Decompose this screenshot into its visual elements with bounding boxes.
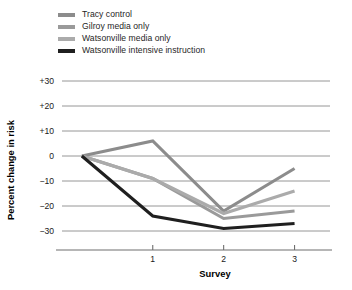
chart-figure: Tracy control Gilroy media only Watsonvi… bbox=[0, 0, 352, 290]
y-axis-tick-label: +30 bbox=[39, 76, 54, 86]
y-axis-tick-label: −30 bbox=[39, 226, 54, 236]
y-axis-tick-labels: +30+20+100−10−20−30 bbox=[39, 76, 54, 236]
y-axis-tick-label: +10 bbox=[39, 126, 54, 136]
x-axis-tick-label: 3 bbox=[292, 254, 297, 264]
x-axis-tick-labels: 123 bbox=[150, 254, 297, 264]
x-axis bbox=[56, 245, 332, 250]
y-axis-tick-label: −10 bbox=[39, 176, 54, 186]
y-axis-tick-label: +20 bbox=[39, 101, 54, 111]
x-axis-title: Survey bbox=[199, 268, 231, 279]
data-series-group bbox=[82, 141, 295, 229]
line-chart-plot: +30+20+100−10−20−30 123 Survey Percent c… bbox=[0, 0, 352, 290]
y-axis-title: Percent change in risk bbox=[5, 119, 16, 220]
y-axis-tick-label: 0 bbox=[49, 151, 54, 161]
x-axis-tick-label: 1 bbox=[150, 254, 155, 264]
x-axis-tick-label: 2 bbox=[221, 254, 226, 264]
gridlines bbox=[62, 81, 330, 231]
y-axis-tick-label: −20 bbox=[39, 201, 54, 211]
